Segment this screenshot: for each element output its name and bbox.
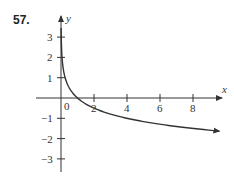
y-tick-label: 1	[47, 72, 53, 84]
x-tick-label: 4	[124, 102, 130, 114]
x-tick-label: 6	[157, 102, 163, 114]
curve	[61, 28, 219, 131]
y-tick-label: 3	[47, 31, 53, 43]
x-tick-label: 8	[190, 102, 196, 114]
y-tick-label: −3	[41, 153, 53, 165]
y-tick-label: 2	[47, 51, 53, 63]
x-axis-label: x	[221, 83, 227, 95]
axes	[36, 16, 222, 172]
y-axis-label: y	[65, 12, 71, 24]
graph: 2468321−1−2−3 x y 0	[0, 0, 234, 180]
y-tick-label: −2	[41, 133, 53, 145]
origin-label: 0	[64, 100, 70, 112]
y-tick-label: −1	[41, 112, 53, 124]
